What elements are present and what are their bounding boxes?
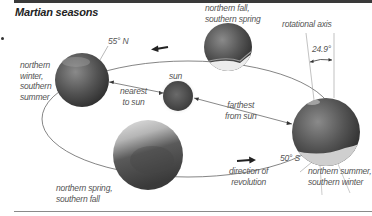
label-line: winter, <box>20 71 51 82</box>
label-line: southern <box>20 81 51 92</box>
label-sun: sun <box>169 71 182 82</box>
label-direction-of-revolution: direction of revolution <box>229 166 268 187</box>
planet-northern-spring <box>113 120 183 190</box>
label-line: southern fall <box>56 194 112 205</box>
revolution-arrow-bottom <box>237 157 256 164</box>
label-line: southern spring <box>205 14 261 25</box>
label-line: direction of <box>229 166 268 177</box>
label-line: northern <box>20 60 51 71</box>
label-line: farthest <box>225 100 256 111</box>
planet-northern-winter <box>55 53 109 107</box>
label-farthest-from-sun: farthest from sun <box>225 100 256 121</box>
bottom-rule <box>14 211 372 212</box>
arrowhead-far-planet <box>287 121 293 125</box>
label-line: southern winter <box>308 177 371 188</box>
sun <box>159 77 197 115</box>
latitude-leader-north <box>100 46 108 60</box>
label-line: to sun <box>120 97 147 108</box>
label-northern-summer: northern summer, southern winter <box>308 166 371 187</box>
revolution-arrow-top <box>151 46 168 53</box>
label-line: summer <box>20 92 51 103</box>
label-line: nearest <box>120 86 147 97</box>
label-latitude-south: 50° S <box>280 153 300 164</box>
label-northern-winter: northern winter, southern summer <box>20 60 51 102</box>
label-nearest-to-sun: nearest to sun <box>120 86 147 107</box>
planet-northern-fall <box>204 23 254 75</box>
label-line: revolution <box>229 177 268 188</box>
label-northern-spring: northern spring, southern fall <box>56 183 112 204</box>
arrowhead-near-planet <box>109 81 114 85</box>
label-line: northern summer, <box>308 166 371 177</box>
label-latitude-north: 55° N <box>108 36 128 47</box>
label-line: northern fall, <box>205 3 261 14</box>
label-axial-tilt: 24.9° <box>312 44 331 55</box>
label-line: northern spring, <box>56 183 112 194</box>
label-rotational-axis: rotational axis <box>282 19 331 30</box>
label-northern-fall: northern fall, southern spring <box>205 3 261 24</box>
planet-northern-summer <box>292 98 362 170</box>
label-line: from sun <box>225 111 256 122</box>
